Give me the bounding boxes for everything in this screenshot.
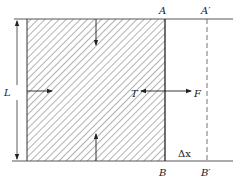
label-b: B <box>158 167 166 178</box>
label-f: F <box>193 88 202 99</box>
label-a: A <box>158 5 166 16</box>
label-l: L <box>3 87 11 98</box>
label-b-prime: B′ <box>200 167 211 178</box>
surface-tension-diagram: A A′ B B′ L T F Δx <box>0 0 250 183</box>
label-delta-x: Δx <box>178 148 191 159</box>
label-a-prime: A′ <box>200 5 211 16</box>
